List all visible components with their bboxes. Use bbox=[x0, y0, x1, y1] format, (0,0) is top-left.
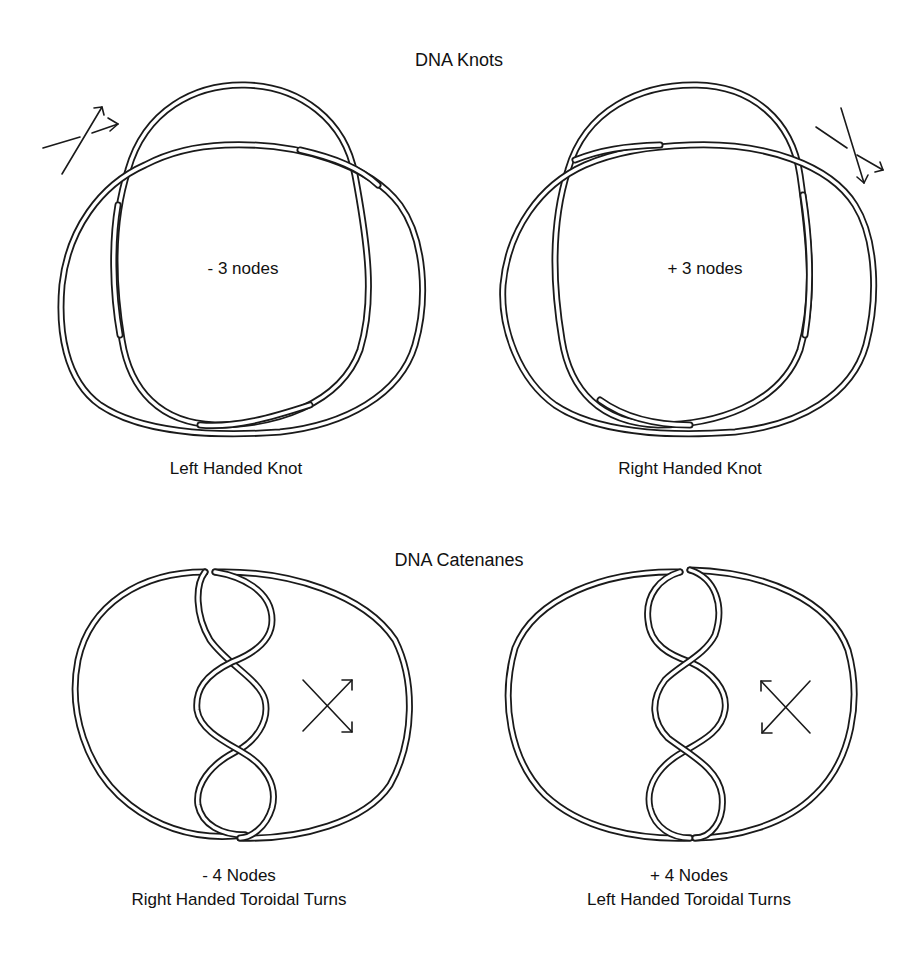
left-knot-caption: Left Handed Knot bbox=[170, 459, 302, 479]
knots-section-title: DNA Knots bbox=[415, 50, 503, 71]
right-catenane-node-count: + 4 Nodes bbox=[650, 866, 728, 886]
left-catenane-caption: Right Handed Toroidal Turns bbox=[131, 890, 346, 910]
catenanes-section-title: DNA Catenanes bbox=[394, 550, 523, 571]
crossing-arrows-icon bbox=[43, 107, 118, 174]
left-catenane-node-count: - 4 Nodes bbox=[202, 866, 276, 886]
crossing-arrows-icon bbox=[303, 680, 352, 732]
left-knot-node-count: - 3 nodes bbox=[208, 259, 279, 279]
dna-topology-figure bbox=[0, 0, 919, 955]
right-knot-node-count: + 3 nodes bbox=[667, 259, 742, 279]
crossing-arrows-icon bbox=[761, 681, 810, 733]
left-handed-catenane-diagram bbox=[508, 570, 854, 838]
right-handed-catenane-diagram bbox=[75, 572, 409, 838]
crossing-arrows-icon bbox=[816, 108, 883, 183]
right-knot-caption: Right Handed Knot bbox=[618, 459, 762, 479]
right-catenane-caption: Left Handed Toroidal Turns bbox=[587, 890, 791, 910]
